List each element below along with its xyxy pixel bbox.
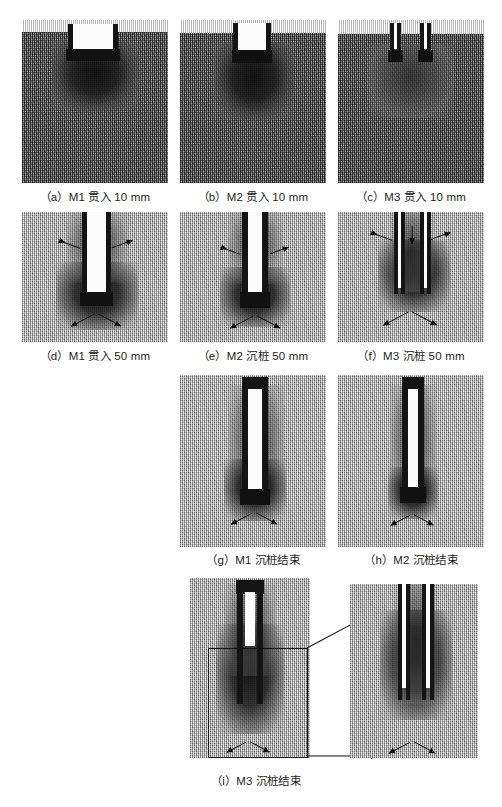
caption-h: （h）M2 沉桩结束: [338, 551, 484, 567]
caption-b: （b）M2 贯入 10 mm: [180, 188, 326, 204]
pile-core-e: [248, 212, 262, 294]
panel-i-detail: [350, 580, 478, 758]
soil-surface-c: [338, 20, 484, 34]
pile-shoe-h: [400, 487, 426, 503]
pile-shoe-d: [80, 292, 113, 306]
panel-a: [22, 20, 168, 183]
caption-i: （i）M3 沉桩结束: [176, 772, 336, 788]
pile-wall-right-d: [106, 212, 111, 298]
pile-wall-inner-left-f: [401, 212, 405, 294]
panel-c: [338, 20, 484, 183]
pile-wall-inner-left-i-detail: [406, 584, 410, 700]
pile-wall-outer-right-i-detail: [430, 584, 434, 700]
pile-penetration-figure: （a）M1 贯入 10 mm （b）M2 贯入 10 mm （c）M3 贯入 1…: [0, 0, 502, 807]
panel-f: [338, 212, 484, 342]
pile-shoe-a: [66, 49, 120, 61]
pile-core-b: [238, 23, 266, 50]
caption-f: （f）M3 沉桩 50 mm: [338, 347, 484, 363]
panel-g: [180, 375, 326, 547]
detail-callout-box: [208, 648, 308, 758]
pile-shoe-g: [240, 489, 270, 505]
caption-d: （d）M1 贯入 50 mm: [22, 347, 168, 363]
pile-shoe-b: [232, 50, 272, 63]
pile-wall-outer-right-f: [427, 212, 431, 294]
pile-wall-right-e: [262, 212, 268, 300]
pile-core-g: [248, 389, 262, 491]
caption-g: （g）M1 沉桩结束: [180, 551, 326, 567]
pile-core-i: [245, 592, 255, 646]
pile-shoe-e: [240, 292, 270, 308]
pile-wall-right-g: [262, 377, 268, 501]
panel-e: [180, 212, 326, 342]
pile-wall-right-h: [418, 377, 424, 499]
panel-d: [22, 212, 168, 342]
disturbance-zone-c: [368, 44, 454, 118]
pile-core-h: [408, 389, 418, 491]
caption-c: （c）M3 贯入 10 mm: [338, 188, 484, 204]
panel-h: [338, 375, 484, 547]
pile-shoe-right-c: [418, 50, 433, 62]
pile-core-a: [73, 24, 113, 49]
caption-e: （e）M2 沉桩 50 mm: [180, 347, 326, 363]
pile-core-d: [87, 212, 106, 292]
pile-shoe-left-c: [388, 50, 403, 62]
caption-a: （a）M1 贯入 10 mm: [22, 188, 168, 204]
panel-b: [180, 20, 326, 183]
